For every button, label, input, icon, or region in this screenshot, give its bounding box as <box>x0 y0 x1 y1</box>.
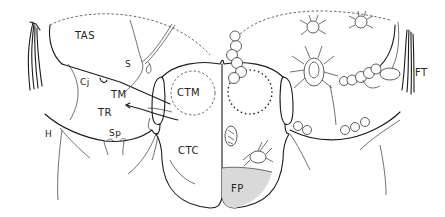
label-ctm: CTM <box>177 88 200 98</box>
label-ctc: CTC <box>178 146 199 156</box>
egg-cluster-top <box>227 31 247 84</box>
label-tm: TM <box>111 90 127 100</box>
label-s: S <box>125 60 131 69</box>
anatomical-diagram <box>0 0 445 217</box>
left-lobe <box>68 64 78 120</box>
label-fp: FP <box>231 184 244 194</box>
egg-cluster-right <box>340 64 401 88</box>
right-fringe <box>402 30 414 94</box>
mite-center-small <box>243 140 273 166</box>
right-lateral-pad <box>280 77 293 124</box>
fp-shaded-region <box>222 167 272 208</box>
mite-engorged <box>225 126 237 146</box>
label-ft: FT <box>415 68 428 78</box>
label-tas: TAS <box>75 31 95 41</box>
left-fringe <box>28 22 42 90</box>
s-vessel <box>125 20 143 92</box>
left-outer-curve <box>50 25 63 64</box>
mite-top-right <box>349 11 373 28</box>
mite-large <box>290 46 338 88</box>
left-lower-margin <box>45 114 158 141</box>
mite-top-left <box>300 15 326 35</box>
label-h: H <box>45 130 52 139</box>
egg-cluster-lower <box>294 118 370 135</box>
label-cj: Cj <box>80 78 90 87</box>
label-sp: Sp <box>109 129 121 138</box>
tas-region-outline <box>50 14 210 55</box>
label-tr: TR <box>98 108 112 118</box>
right-outer-curve <box>375 25 395 70</box>
